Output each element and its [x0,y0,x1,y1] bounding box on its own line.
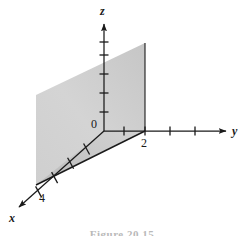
figure-caption: Figure 20.15 [0,228,244,236]
vertical-plane [36,43,145,185]
z-axis-label: z [99,4,105,18]
x-axis-label: x [8,211,15,225]
figure-container: z y 2 x 4 [0,0,244,236]
coordinate-diagram: z y 2 x 4 [0,0,244,236]
x-axis-tick-label-4: 4 [39,191,45,205]
y-axis-label: y [230,124,238,138]
y-axis-tick-label-2: 2 [141,136,147,150]
origin-label: 0 [91,117,97,131]
